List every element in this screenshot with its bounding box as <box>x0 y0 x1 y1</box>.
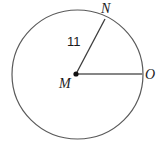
point-label-m: M <box>59 77 71 91</box>
center-point-dot <box>73 71 78 76</box>
point-label-n: N <box>101 2 110 16</box>
diagram-canvas <box>0 0 162 149</box>
circle-diagram-figure: N M O 11 <box>0 0 162 149</box>
point-label-o: O <box>145 68 155 82</box>
radius-measure-label: 11 <box>67 35 81 48</box>
